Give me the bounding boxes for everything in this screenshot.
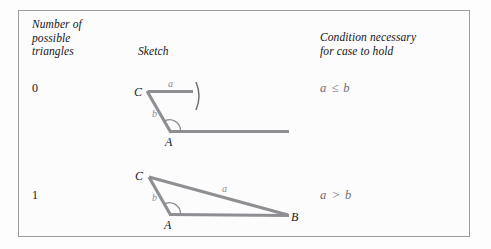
row-condition-value-0: a ≤ b [320,81,351,96]
row-condition-value-1: a > b [320,188,352,203]
row-count-value-0: 0 [32,81,38,96]
column-header-condition: Condition necessary for case to hold [320,31,416,58]
ambiguous-case-figure: Number of possible triangles Sketch Cond… [0,0,491,249]
row-count-value-1: 1 [32,188,38,203]
column-header-sketch: Sketch [138,45,169,59]
column-header-number-of-triangles: Number of possible triangles [32,18,82,59]
